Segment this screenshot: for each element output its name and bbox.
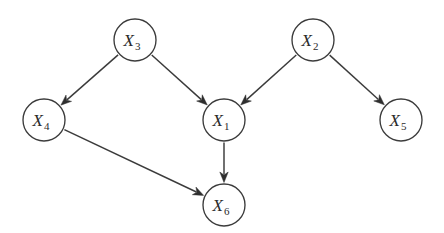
node-label-subscript: 4 xyxy=(44,120,50,132)
node-label-subscript: 2 xyxy=(313,40,319,52)
edge-line xyxy=(67,55,118,100)
node-x2[interactable]: X2 xyxy=(292,19,334,61)
node-label-subscript: 5 xyxy=(401,120,407,132)
node-layer: X3X2X4X1X5X6 xyxy=(23,19,422,226)
dag-figure: X3X2X4X1X5X6 xyxy=(0,0,444,233)
node-x3[interactable]: X3 xyxy=(114,19,156,61)
node-x4[interactable]: X4 xyxy=(23,99,65,141)
edge-x4-to-x6 xyxy=(64,130,203,196)
edge-line xyxy=(330,55,379,99)
edge-x3-to-x4 xyxy=(61,55,118,105)
edge-x2-to-x5 xyxy=(330,55,385,105)
edge-line xyxy=(152,55,202,100)
edge-x3-to-x1 xyxy=(152,55,208,105)
edge-line xyxy=(247,55,297,100)
edge-x1-to-x6 xyxy=(220,143,228,183)
graph-canvas: X3X2X4X1X5X6 xyxy=(0,0,444,233)
node-label-subscript: 1 xyxy=(224,120,230,132)
node-label-subscript: 6 xyxy=(224,205,230,217)
edge-x2-to-x1 xyxy=(241,55,297,105)
node-x6[interactable]: X6 xyxy=(203,184,245,226)
node-x5[interactable]: X5 xyxy=(380,99,422,141)
node-x1[interactable]: X1 xyxy=(203,99,245,141)
edge-line xyxy=(64,130,196,192)
node-label-subscript: 3 xyxy=(135,40,141,52)
